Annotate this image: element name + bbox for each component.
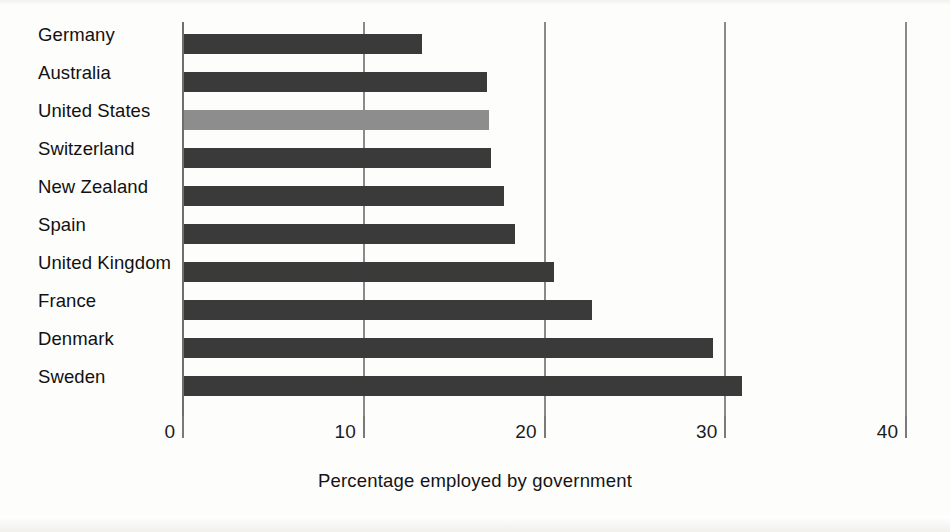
category-label: Switzerland (0, 138, 168, 160)
bar (182, 300, 592, 320)
category-label: Sweden (0, 366, 168, 388)
tick-mark-30 (724, 416, 726, 438)
x-axis-title: Percentage employed by government (0, 470, 950, 492)
tick-label-10: 10 (335, 421, 363, 443)
bar (182, 376, 742, 396)
tick-mark-20 (544, 416, 546, 438)
category-label: New Zealand (0, 176, 168, 198)
category-label: United States (0, 100, 168, 122)
value-axis-baseline (182, 22, 184, 420)
gridline-20 (544, 22, 546, 420)
tick-label-30: 30 (696, 421, 724, 443)
bar (182, 224, 515, 244)
bar (182, 262, 554, 282)
bar (182, 110, 489, 130)
bar (182, 148, 491, 168)
gridline-30 (724, 22, 726, 420)
category-label: France (0, 290, 168, 312)
bar (182, 34, 422, 54)
scan-edge-bottom (0, 516, 950, 532)
tick-mark-0 (182, 416, 184, 438)
category-label: Germany (0, 24, 168, 46)
category-label: United Kingdom (0, 252, 168, 274)
scan-edge-top (0, 0, 950, 6)
tick-mark-10 (363, 416, 365, 438)
bar (182, 186, 504, 206)
bar (182, 72, 487, 92)
category-label: Denmark (0, 328, 168, 350)
bar (182, 338, 713, 358)
tick-label-0: 0 (164, 421, 182, 443)
tick-label-20: 20 (515, 421, 543, 443)
category-label: Spain (0, 214, 168, 236)
gridline-40 (905, 22, 907, 420)
tick-label-40: 40 (877, 421, 905, 443)
tick-mark-40 (905, 416, 907, 438)
bar-chart-figure: GermanyAustraliaUnited StatesSwitzerland… (0, 0, 950, 532)
category-label: Australia (0, 62, 168, 84)
